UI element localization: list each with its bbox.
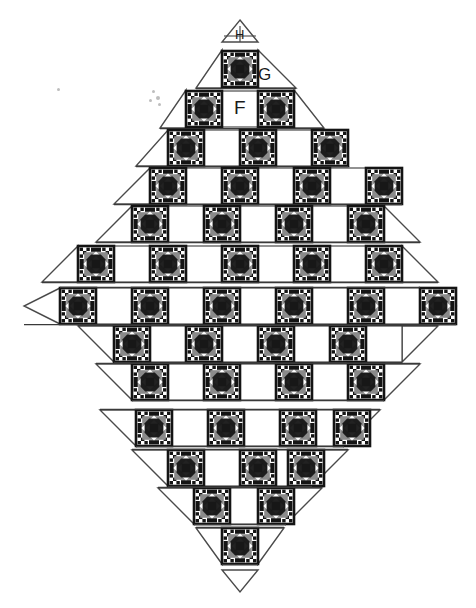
setting-triangle-left xyxy=(158,488,194,524)
plain-white-square xyxy=(114,246,150,282)
setting-triangle-left xyxy=(132,450,168,486)
row-11 xyxy=(132,449,348,486)
setting-triangle-right xyxy=(384,206,420,242)
scan-speck xyxy=(158,103,161,106)
pieced-star-block xyxy=(150,168,186,204)
pieced-star-block xyxy=(186,91,222,127)
plain-white-square xyxy=(312,206,348,242)
plain-white-square xyxy=(330,168,366,204)
pieced-star-block xyxy=(204,364,240,400)
row-13 xyxy=(196,527,284,564)
row-label-h: H xyxy=(235,28,244,41)
row-14-bottom-tip xyxy=(222,570,258,592)
pieced-star-block xyxy=(132,364,168,400)
setting-triangle-left xyxy=(96,206,132,242)
plain-white-square xyxy=(204,130,240,166)
pieced-star-block xyxy=(208,410,244,446)
row-3 xyxy=(136,130,348,167)
setting-triangle-right xyxy=(384,364,420,400)
row-4 xyxy=(114,168,402,205)
setting-triangle-left xyxy=(114,168,150,204)
pieced-star-block xyxy=(334,410,370,446)
pieced-star-block xyxy=(348,288,384,324)
plain-white-square xyxy=(240,364,276,400)
setting-triangle-left xyxy=(96,364,132,400)
pieced-star-block xyxy=(294,246,330,282)
pieced-star-block xyxy=(204,206,240,242)
pieced-star-block xyxy=(222,51,258,87)
pieced-star-block xyxy=(78,246,114,282)
plain-white-square xyxy=(168,206,204,242)
corner-triangle xyxy=(222,570,258,592)
row-10 xyxy=(100,409,380,446)
plain-white-square xyxy=(168,364,204,400)
setting-triangle-right xyxy=(402,246,438,282)
setting-triangle-left xyxy=(42,246,78,282)
plain-white-square xyxy=(96,288,132,324)
pieced-star-block xyxy=(258,488,294,524)
plain-white-square xyxy=(276,130,312,166)
row-12 xyxy=(158,487,322,524)
pieced-star-block xyxy=(114,326,150,362)
pieced-star-block xyxy=(366,168,402,204)
pieced-star-block xyxy=(222,168,258,204)
setting-triangle-right xyxy=(294,90,324,128)
setting-triangle-right xyxy=(258,528,284,564)
plain-white-square xyxy=(172,410,208,446)
pieced-star-block xyxy=(222,246,258,282)
row-label-g: G xyxy=(258,66,271,83)
pieced-star-block xyxy=(330,326,366,362)
pieced-star-block xyxy=(136,410,172,446)
scan-speck xyxy=(57,88,60,91)
setting-triangle-left xyxy=(160,90,186,128)
pieced-star-block xyxy=(280,410,316,446)
pieced-star-block xyxy=(60,288,96,324)
pieced-star-block xyxy=(194,488,230,524)
pieced-star-block xyxy=(132,288,168,324)
pieced-star-block xyxy=(288,450,324,486)
plain-white-square xyxy=(222,326,258,362)
pieced-star-block xyxy=(222,528,258,564)
pieced-star-block xyxy=(258,91,294,127)
row-6 xyxy=(42,246,438,283)
setting-triangle-left xyxy=(100,410,136,446)
pieced-star-block xyxy=(420,288,456,324)
plain-white-square xyxy=(258,168,294,204)
pieced-star-block xyxy=(294,168,330,204)
pieced-star-block xyxy=(276,206,312,242)
pieced-star-block xyxy=(240,130,276,166)
pieced-star-block xyxy=(366,246,402,282)
pieced-star-block xyxy=(204,288,240,324)
setting-triangle-left xyxy=(196,528,222,564)
quilt-diagram-svg xyxy=(0,0,476,608)
plain-white-square xyxy=(312,288,348,324)
pieced-star-block xyxy=(276,364,312,400)
setting-triangle-left xyxy=(24,288,60,324)
plain-white-square xyxy=(366,326,402,362)
plain-white-square xyxy=(240,206,276,242)
plain-white-square xyxy=(330,246,366,282)
pieced-star-block xyxy=(258,326,294,362)
row-1 xyxy=(196,50,296,89)
pieced-star-block xyxy=(312,130,348,166)
row-7-widest xyxy=(24,287,456,324)
pieced-star-block xyxy=(240,450,276,486)
setting-triangle-left xyxy=(78,326,114,362)
scan-speck xyxy=(152,90,155,93)
plain-white-square xyxy=(384,288,420,324)
plain-white-square xyxy=(244,410,280,446)
scan-speck xyxy=(156,96,160,100)
plain-white-square xyxy=(258,246,294,282)
setting-triangle-left xyxy=(196,50,222,88)
row-5 xyxy=(96,206,420,243)
pieced-star-block xyxy=(276,288,312,324)
row-label-f: F xyxy=(234,98,246,117)
plain-white-square xyxy=(204,450,240,486)
scan-speck xyxy=(149,99,152,102)
plain-white-square xyxy=(294,326,330,362)
pieced-star-block xyxy=(132,206,168,242)
pieced-star-block xyxy=(348,206,384,242)
row-8 xyxy=(78,325,438,362)
pieced-star-block xyxy=(168,130,204,166)
plain-white-square xyxy=(150,326,186,362)
